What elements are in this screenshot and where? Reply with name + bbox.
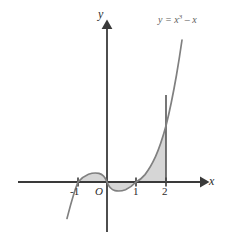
- y-axis-arrowhead: [102, 20, 113, 30]
- x-axis-label: x: [209, 175, 214, 187]
- curve-equation-label: y = x3 – x: [158, 15, 197, 25]
- plot-canvas: [0, 0, 227, 243]
- curve-label-prefix: y = x: [158, 14, 179, 25]
- x-tick-label-1: 1: [133, 186, 139, 197]
- figure-root: -1 1 2 O x y y = x3 – x: [0, 0, 227, 243]
- x-tick-label-2: 2: [162, 186, 168, 197]
- origin-label: O: [95, 186, 103, 197]
- curve-label-suffix: – x: [182, 14, 196, 25]
- shaded-region-main-area: [136, 126, 166, 182]
- y-axis-label: y: [98, 8, 103, 20]
- x-tick-label-neg1: -1: [70, 186, 79, 197]
